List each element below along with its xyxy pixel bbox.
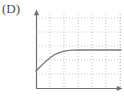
y-axis-arrow-icon <box>34 10 39 16</box>
grid-horizontal <box>36 18 121 74</box>
plot-area <box>0 0 124 105</box>
figure-panel: (D) <box>0 0 124 105</box>
grid-vertical <box>50 14 120 88</box>
data-curve <box>36 50 121 71</box>
